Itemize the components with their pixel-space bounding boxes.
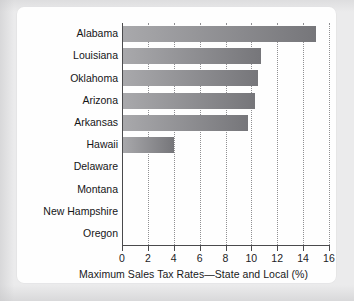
x-tick-14 (303, 246, 304, 251)
x-tick-6 (200, 246, 201, 251)
x-tick-label-8: 8 (213, 252, 239, 264)
x-tick-label-2: 2 (135, 252, 161, 264)
bar-row (122, 90, 329, 112)
bar-row (122, 134, 329, 156)
x-tick-label-4: 4 (161, 252, 187, 264)
y-axis-label-hawaii: Hawaii (14, 138, 118, 150)
bar-arizona (122, 93, 255, 109)
bar-arkansas (122, 115, 248, 131)
x-tick-label-12: 12 (264, 252, 290, 264)
plot-area (122, 23, 329, 245)
y-axis-label-arkansas: Arkansas (14, 116, 118, 128)
x-axis-title: Maximum Sales Tax Rates—State and Local … (34, 268, 353, 280)
y-axis-label-louisiana: Louisiana (14, 49, 118, 61)
bar-row (122, 45, 329, 67)
x-tick-label-0: 0 (109, 252, 135, 264)
x-tick-0 (122, 246, 123, 251)
figure-container: 0246810121416 AlabamaLouisianaOklahomaAr… (0, 0, 354, 301)
bar-row (122, 112, 329, 134)
x-tick-8 (226, 246, 227, 251)
bar-louisiana (122, 48, 261, 64)
gridline-16 (329, 23, 330, 245)
x-tick-label-10: 10 (238, 252, 264, 264)
y-axis-line (122, 23, 123, 246)
x-tick-10 (251, 246, 252, 251)
x-tick-12 (277, 246, 278, 251)
x-tick-2 (148, 246, 149, 251)
bar-oklahoma (122, 70, 258, 86)
y-axis-label-new-hampshire: New Hampshire (14, 205, 118, 217)
bar-hawaii (122, 137, 174, 153)
bar-row (122, 23, 329, 45)
x-tick-16 (329, 246, 330, 251)
y-axis-labels: AlabamaLouisianaOklahomaArizonaArkansasH… (13, 23, 118, 245)
y-axis-label-delaware: Delaware (14, 160, 118, 172)
y-axis-label-oregon: Oregon (14, 227, 118, 239)
x-tick-4 (174, 246, 175, 251)
bar-row (122, 178, 329, 200)
x-tick-label-16: 16 (316, 252, 342, 264)
x-tick-label-6: 6 (187, 252, 213, 264)
bar-row (122, 67, 329, 89)
bar-row (122, 156, 329, 178)
bar-row (122, 201, 329, 223)
bar-row (122, 223, 329, 245)
y-axis-label-arizona: Arizona (14, 94, 118, 106)
bar-alabama (122, 26, 316, 42)
chart-panel: 0246810121416 AlabamaLouisianaOklahomaAr… (17, 7, 336, 283)
x-tick-label-14: 14 (290, 252, 316, 264)
y-axis-label-oklahoma: Oklahoma (14, 72, 118, 84)
y-axis-label-alabama: Alabama (14, 27, 118, 39)
y-axis-label-montana: Montana (14, 183, 118, 195)
